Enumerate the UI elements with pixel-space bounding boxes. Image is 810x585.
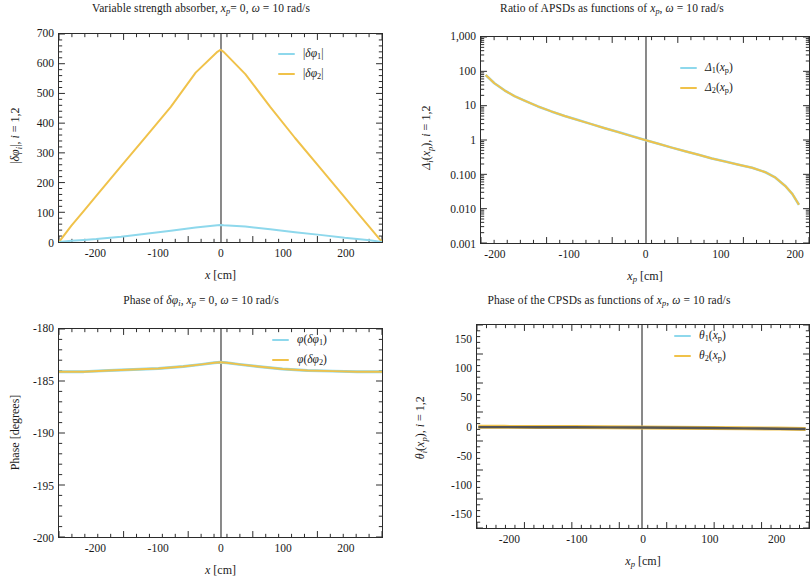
panel-title: Ratio of APSDs as functions of xp, ω = 1… — [420, 2, 804, 16]
x-tick: -100 — [566, 533, 587, 545]
panel-title: Phase of the CPSDs as functions of xp, ω… — [414, 294, 804, 308]
legend-swatch-series1 — [680, 67, 697, 70]
y-tick: 100 — [37, 207, 54, 219]
x-tick: 0 — [640, 533, 646, 545]
y-tick: -190 — [33, 427, 54, 439]
legend-label: |δφ1| — [303, 47, 323, 61]
x-tick: 100 — [712, 248, 729, 260]
y-axis-title: Phase [degrees] — [8, 368, 23, 498]
panel-top-left: Variable strength absorber, xp= 0, ω = 1… — [0, 0, 402, 292]
x-tick: -200 — [85, 247, 106, 259]
x-tick: 0 — [218, 247, 224, 259]
legend-item: |δφ1| — [278, 44, 323, 64]
x-tick: 200 — [337, 247, 354, 259]
legend: θ1(xp) θ2(xp) — [674, 326, 726, 366]
legend-swatch-series2 — [674, 355, 691, 358]
legend-label: θ1(xp) — [699, 329, 726, 343]
x-tick: 0 — [218, 542, 224, 554]
panel-bottom-left: Phase of δφi, xp = 0, ω = 10 rad/s -180 … — [0, 292, 402, 585]
x-tick: -100 — [148, 247, 169, 259]
plot-area — [59, 34, 382, 242]
y-tick: 500 — [37, 87, 54, 99]
y-tick: 200 — [37, 177, 54, 189]
y-tick: -195 — [33, 480, 54, 492]
legend-item: φ(δφ2) — [272, 350, 327, 370]
y-tick: -50 — [457, 450, 472, 462]
y-tick: 1 — [470, 134, 476, 146]
y-tick: 600 — [37, 57, 54, 69]
y-tick: 400 — [37, 117, 54, 129]
legend-label: φ(δφ2) — [297, 353, 327, 367]
legend-swatch-series1 — [272, 339, 289, 342]
y-tick: 150 — [455, 333, 472, 345]
y-tick: -150 — [451, 508, 472, 520]
x-axis-title: x [cm] — [58, 563, 383, 578]
plot-frame — [58, 33, 383, 243]
legend-item: Δ2(xp) — [680, 78, 733, 98]
y-tick: 0 — [466, 421, 472, 433]
y-tick: 10 — [465, 99, 477, 111]
y-tick: -200 — [33, 532, 54, 544]
x-tick: -200 — [499, 533, 520, 545]
legend-item: Δ1(xp) — [680, 58, 733, 78]
x-tick: 200 — [787, 248, 804, 260]
panel-title: Variable strength absorber, xp= 0, ω = 1… — [0, 2, 402, 16]
y-tick: 1,000 — [450, 30, 476, 42]
plot-area — [59, 329, 382, 537]
legend-swatch-series1 — [278, 53, 295, 56]
plot-area — [481, 37, 809, 243]
legend-swatch-series2 — [272, 359, 289, 362]
y-tick: -180 — [33, 322, 54, 334]
x-tick: 200 — [337, 542, 354, 554]
y-axis-title: θi(xp), i = 1,2 — [413, 363, 428, 493]
y-tick: 0 — [48, 237, 54, 249]
y-tick: 100 — [455, 362, 472, 374]
legend-item: φ(δφ1) — [272, 330, 327, 350]
legend-swatch-series1 — [674, 335, 691, 338]
y-axis-title: Δi(xp), i = 1,2 — [419, 73, 434, 203]
x-tick: -100 — [148, 542, 169, 554]
y-tick: 0.001 — [450, 238, 476, 250]
x-tick: -100 — [559, 248, 580, 260]
x-tick-labels: -200 -100 0 100 200 — [58, 542, 383, 560]
y-tick: 0.010 — [450, 203, 476, 215]
legend-label: |δφ2| — [303, 67, 323, 81]
x-tick: -200 — [484, 248, 505, 260]
x-tick: -200 — [85, 542, 106, 554]
y-tick: 50 — [461, 391, 473, 403]
y-tick: 700 — [37, 27, 54, 39]
y-tick: 100 — [459, 65, 476, 77]
legend-swatch-series2 — [278, 73, 295, 76]
x-axis-title: xp [cm] — [476, 554, 810, 569]
legend-label: θ2(xp) — [699, 349, 726, 363]
plot-frame — [480, 36, 810, 244]
panel-bottom-right: Phase of the CPSDs as functions of xp, ω… — [402, 292, 804, 585]
y-tick: -100 — [451, 479, 472, 491]
legend: |δφ1| |δφ2| — [278, 44, 323, 84]
panel-title: Phase of δφi, xp = 0, ω = 10 rad/s — [0, 294, 402, 308]
y-axis-title: |δφi|, i = 1,2 — [8, 76, 23, 196]
legend-label: Δ1(xp) — [705, 61, 733, 75]
legend-item: θ2(xp) — [674, 346, 726, 366]
x-tick: 200 — [768, 533, 785, 545]
panel-top-right: Ratio of APSDs as functions of xp, ω = 1… — [402, 0, 804, 292]
plot-frame — [476, 324, 810, 529]
legend: Δ1(xp) Δ2(xp) — [680, 58, 733, 98]
legend-item: |δφ2| — [278, 64, 323, 84]
legend-swatch-series2 — [680, 87, 697, 90]
x-tick-labels: -200 -100 0 100 200 — [58, 247, 383, 265]
legend-item: θ1(xp) — [674, 326, 726, 346]
y-tick: 300 — [37, 147, 54, 159]
plot-frame — [58, 328, 383, 538]
legend-label: φ(δφ1) — [297, 333, 327, 347]
x-tick: 100 — [275, 247, 292, 259]
plot-area — [477, 325, 809, 528]
x-tick-labels: -200 -100 0 100 200 — [480, 248, 810, 266]
legend-label: Δ2(xp) — [705, 81, 733, 95]
x-axis-title: x [cm] — [58, 268, 383, 283]
y-tick: 0.100 — [450, 169, 476, 181]
x-tick-labels: -200 -100 0 100 200 — [476, 533, 810, 551]
y-tick: -185 — [33, 375, 54, 387]
x-tick: 100 — [275, 542, 292, 554]
